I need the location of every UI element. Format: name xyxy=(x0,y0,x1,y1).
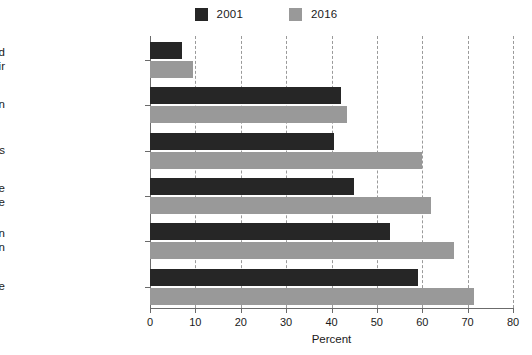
bar-2016 xyxy=(150,106,347,123)
category-label: Abortion xyxy=(0,97,5,111)
category-tick xyxy=(145,241,150,242)
tick-label-60: 60 xyxy=(416,316,428,328)
bar-2001 xyxy=(150,178,354,195)
category-label-line: women having an affair xyxy=(0,59,5,73)
tick-mark-40 xyxy=(332,308,333,313)
bar-2016 xyxy=(150,288,474,305)
x-axis-title: Percent xyxy=(150,333,513,345)
category-label-line: Having a baby outside xyxy=(0,181,5,195)
legend-swatch-2001 xyxy=(195,8,208,21)
bar-2001 xyxy=(150,223,390,240)
category-label-line: Sex between an xyxy=(0,226,5,240)
bar-chart: 2001 2016 01020304050607080 Married men … xyxy=(0,0,532,355)
tick-label-30: 30 xyxy=(280,316,292,328)
bar-2016 xyxy=(150,61,193,78)
tick-mark-80 xyxy=(513,308,514,313)
category-label-line: unmarried man and woman xyxy=(0,240,5,254)
bar-2001 xyxy=(150,269,418,286)
bar-group xyxy=(150,223,513,262)
bar-2001 xyxy=(150,133,334,150)
category-label: Divorce xyxy=(0,279,5,293)
category-label-line: Abortion xyxy=(0,97,5,111)
bar-2016 xyxy=(150,242,454,259)
tick-label-70: 70 xyxy=(462,316,474,328)
category-label-line: Gay or lesbian relations xyxy=(0,143,5,157)
plot-area xyxy=(150,36,513,308)
category-label: Gay or lesbian relations xyxy=(0,143,5,157)
tick-label-0: 0 xyxy=(147,316,153,328)
bar-2001 xyxy=(150,87,341,104)
tick-mark-70 xyxy=(468,308,469,313)
category-tick xyxy=(145,151,150,152)
tick-mark-60 xyxy=(422,308,423,313)
tick-mark-10 xyxy=(195,308,196,313)
category-label-line: Divorce xyxy=(0,279,5,293)
tick-label-40: 40 xyxy=(325,316,337,328)
category-label: Having a baby outsideof marriage xyxy=(0,181,5,209)
gridline-80 xyxy=(513,36,514,308)
category-tick xyxy=(145,105,150,106)
tick-label-50: 50 xyxy=(371,316,383,328)
category-label-line: Married men and xyxy=(0,45,5,59)
category-tick xyxy=(145,60,150,61)
tick-mark-30 xyxy=(286,308,287,313)
legend-label-2016: 2016 xyxy=(311,9,337,21)
tick-mark-20 xyxy=(241,308,242,313)
bar-group xyxy=(150,178,513,217)
legend-item-2001: 2001 xyxy=(195,8,243,21)
bar-group xyxy=(150,42,513,81)
bar-group xyxy=(150,133,513,172)
category-label: Sex between anunmarried man and woman xyxy=(0,226,5,254)
tick-label-10: 10 xyxy=(189,316,201,328)
legend-label-2001: 2001 xyxy=(217,9,243,21)
legend-item-2016: 2016 xyxy=(289,8,337,21)
tick-label-80: 80 xyxy=(507,316,519,328)
tick-mark-0 xyxy=(150,308,151,313)
bar-group xyxy=(150,87,513,126)
bar-2016 xyxy=(150,197,431,214)
legend-swatch-2016 xyxy=(289,8,302,21)
tick-mark-50 xyxy=(377,308,378,313)
bar-group xyxy=(150,269,513,308)
category-tick xyxy=(145,287,150,288)
category-tick xyxy=(145,196,150,197)
category-label-line: of marriage xyxy=(0,195,5,209)
chart-legend: 2001 2016 xyxy=(0,8,532,21)
bar-2016 xyxy=(150,152,422,169)
bar-2001 xyxy=(150,42,182,59)
category-label: Married men andwomen having an affair xyxy=(0,45,5,73)
tick-label-20: 20 xyxy=(235,316,247,328)
